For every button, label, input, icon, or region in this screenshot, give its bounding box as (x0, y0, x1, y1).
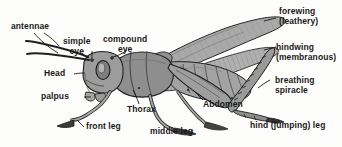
label-hindwing-line1: hindwing (276, 42, 314, 52)
label-palpus: palpus (41, 92, 69, 102)
label-thorax: Thorax (127, 105, 156, 115)
simple-eye-shape (91, 59, 94, 62)
label-compound-eye-line1: compound (103, 34, 147, 44)
label-forewing: forewing (leathery) (279, 7, 318, 26)
label-hindwing-line2: (membranous) (276, 53, 336, 63)
palpus-shape (85, 92, 95, 101)
label-breathing-spiracle: breathing spiracle (275, 76, 315, 95)
grasshopper-anatomy-figure: antennae simple eye compound eye Head pa… (0, 0, 342, 147)
leader-breathing-spiracle (258, 80, 270, 88)
label-forewing-line2: (leathery) (279, 17, 318, 27)
spiracle-dot (138, 87, 140, 89)
label-antennae: antennae (11, 22, 49, 32)
leader-front-leg (78, 121, 84, 127)
label-breathing-spiracle-line1: breathing (275, 75, 315, 85)
label-middle-leg: middle leg (150, 127, 193, 137)
label-front-leg: front leg (86, 122, 121, 132)
label-head: Head (44, 69, 65, 79)
simple-eye-shape (111, 57, 114, 60)
label-breathing-spiracle-line2: spiracle (275, 86, 315, 96)
label-simple-eye-line1: simple (63, 36, 91, 46)
spiracle-dot (187, 89, 189, 91)
label-abdomen: Abdomen (203, 100, 243, 110)
label-hind-leg: hind (jumping) leg (250, 121, 325, 131)
front-tarsus (57, 120, 74, 128)
label-compound-eye-line2: eye (103, 45, 147, 55)
label-simple-eye: simple eye (63, 37, 91, 56)
label-forewing-line1: forewing (279, 6, 315, 16)
label-hindwing: hindwing (membranous) (276, 43, 336, 62)
label-compound-eye: compound eye (103, 35, 147, 54)
label-simple-eye-line2: eye (63, 47, 91, 57)
